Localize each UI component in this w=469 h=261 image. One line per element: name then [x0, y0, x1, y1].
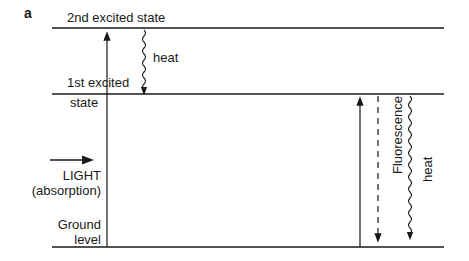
panel-label: a [24, 6, 32, 21]
heat-wavy-arrow-right [409, 96, 412, 236]
first-excited-label-2: state [70, 95, 98, 110]
ground-label-2: level [0, 232, 101, 247]
second-excited-label: 2nd excited state [67, 10, 165, 25]
heat-label-top: heat [153, 50, 178, 65]
absorption-label: (absorption) [0, 183, 101, 198]
fluorescence-label: Fluorescence [390, 96, 405, 174]
heat-wavy-arrow-top [143, 30, 146, 91]
ground-label: Ground [0, 217, 101, 232]
first-excited-label: 1st excited [67, 75, 129, 90]
heat-label-right: heat [420, 157, 435, 182]
light-label: LIGHT [0, 168, 101, 183]
